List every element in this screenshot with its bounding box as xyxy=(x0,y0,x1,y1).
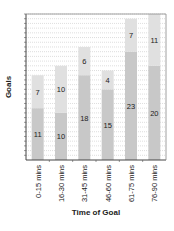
x-tick-label: 46-60 mins xyxy=(104,165,113,202)
bar-value-label: 23 xyxy=(127,102,135,111)
bars: 11710101861542372011 xyxy=(32,14,161,160)
x-ticks: 0-15 mins16-30 mins31-45 mins46-60 mins6… xyxy=(34,160,160,202)
bar-value-label: 10 xyxy=(57,132,65,141)
bar-value-label: 7 xyxy=(36,88,40,97)
x-tick-label: 0-15 mins xyxy=(34,165,43,198)
bar-value-label: 6 xyxy=(82,57,86,66)
x-tick-label: 16-30 mins xyxy=(57,165,66,202)
x-tick-label: 61-75 mins xyxy=(127,165,136,202)
y-axis-title: Goals xyxy=(4,75,13,98)
bar-value-label: 15 xyxy=(103,121,111,130)
x-tick-label: 31-45 mins xyxy=(80,165,89,202)
x-axis-title: Time of Goal xyxy=(72,208,120,217)
bar-value-label: 18 xyxy=(80,114,88,123)
bar-value-label: 20 xyxy=(150,109,158,118)
bar-value-label: 11 xyxy=(150,36,158,45)
stacked-bar-chart: 11710101861542372011 0-15 mins16-30 mins… xyxy=(0,0,174,231)
bar-value-label: 10 xyxy=(57,85,65,94)
bar-value-label: 4 xyxy=(106,76,110,85)
x-tick-label: 76-90 mins xyxy=(150,165,159,202)
bar-value-label: 7 xyxy=(129,31,133,40)
gridlines xyxy=(26,14,166,155)
bar-value-label: 11 xyxy=(34,130,42,139)
